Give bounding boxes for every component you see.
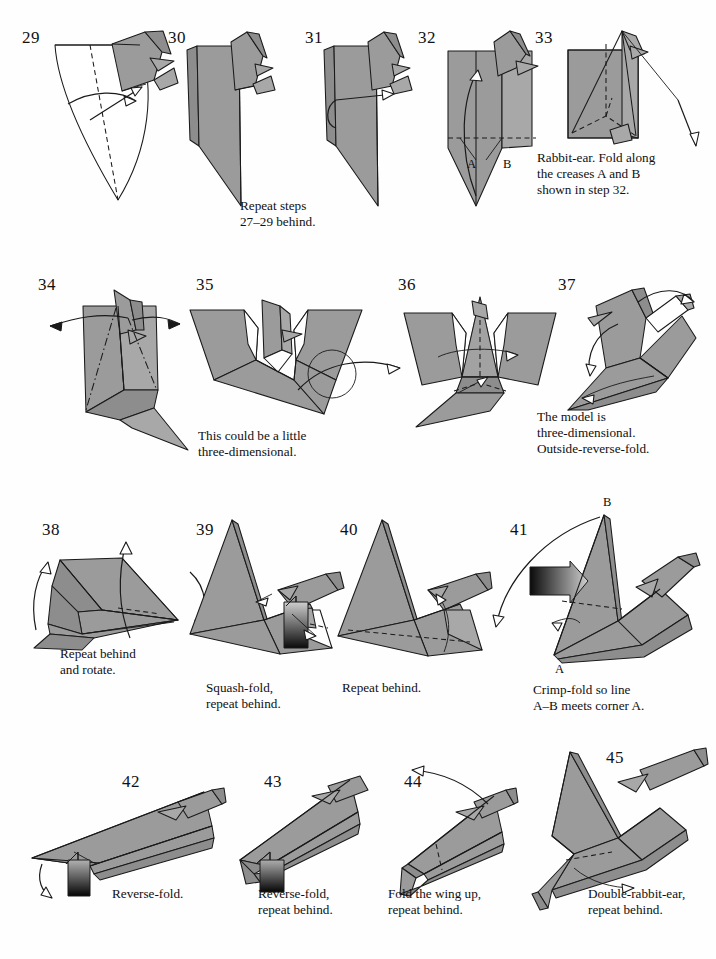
- point-label-b-step-32: B: [503, 157, 511, 172]
- origami-diagram-page: 29 30 Repeat: [0, 0, 716, 959]
- figure-step-42: [26, 768, 226, 898]
- figure-step-43: [228, 764, 368, 894]
- step-number-33: 33: [535, 28, 553, 48]
- caption-step-33: Rabbit-ear. Fold along the creases A and…: [537, 150, 655, 199]
- caption-step-42: Reverse-fold.: [112, 886, 183, 902]
- figure-step-39: [186, 508, 346, 668]
- figure-step-34: [28, 278, 193, 463]
- figure-step-40: [332, 508, 492, 668]
- figure-step-31: [320, 28, 445, 213]
- turn-over-icon: [296, 338, 406, 413]
- caption-step-37: The model is three-dimensional. Outside-…: [537, 409, 649, 458]
- point-label-a-step-32: A: [467, 157, 476, 172]
- caption-step-43: Reverse-fold, repeat behind.: [258, 886, 333, 918]
- figure-step-37: [560, 280, 710, 425]
- caption-step-30: Repeat steps 27–29 behind.: [240, 198, 315, 230]
- caption-step-35: This could be a little three-dimensional…: [198, 428, 306, 460]
- caption-step-40: Repeat behind.: [342, 680, 421, 696]
- caption-step-38: Repeat behind and rotate.: [60, 646, 136, 678]
- step-number-29: 29: [22, 28, 40, 48]
- caption-step-41: Crimp-fold so line A–B meets corner A.: [533, 682, 644, 714]
- figure-step-41: [492, 505, 702, 670]
- figure-step-30: [183, 28, 303, 213]
- caption-step-39: Squash-fold, repeat behind.: [206, 680, 281, 712]
- caption-step-45: Double-rabbit-ear, repeat behind.: [588, 886, 685, 918]
- caption-step-44: Fold the wing up, repeat behind.: [388, 886, 481, 918]
- figure-step-44: [378, 758, 518, 898]
- figure-step-29: [50, 28, 180, 208]
- step-number-32: 32: [418, 28, 436, 48]
